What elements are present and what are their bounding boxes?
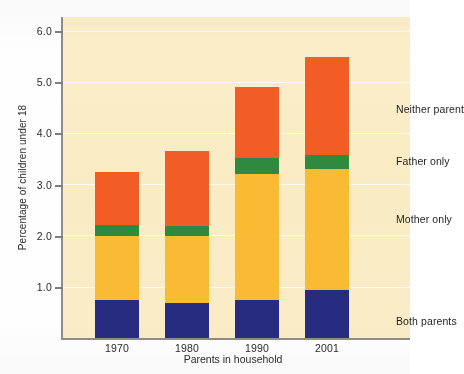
bar-segment-father-only (235, 158, 279, 174)
bar-segment-neither-parent (235, 87, 279, 158)
bar-segment-neither-parent (305, 57, 349, 155)
bar-segment-mother-only (305, 169, 349, 290)
bar-segment-mother-only (95, 236, 139, 300)
bar-1990[interactable] (235, 87, 279, 338)
y-tick-label-5: 5.0 (6, 76, 52, 88)
y-tick-mark (55, 287, 63, 289)
bar-segment-both-parents (235, 300, 279, 338)
bar-segment-mother-only (235, 174, 279, 300)
gridline (62, 82, 410, 83)
bar-segment-both-parents (95, 300, 139, 338)
y-tick-label-4: 4.0 (6, 127, 52, 139)
x-axis-line (61, 338, 410, 340)
bar-segment-both-parents (165, 303, 209, 338)
y-tick-mark (55, 185, 63, 187)
bar-segment-mother-only (165, 236, 209, 303)
bar-segment-both-parents (305, 290, 349, 338)
x-axis-title: Parents in household (118, 353, 348, 365)
bar-2001[interactable] (305, 57, 349, 338)
bar-1970[interactable] (95, 172, 139, 338)
bar-segment-neither-parent (165, 151, 209, 226)
bar-segment-neither-parent (95, 172, 139, 225)
y-tick-label-2: 2.0 (6, 230, 52, 242)
y-tick-mark (55, 133, 63, 135)
legend-item-neither-parent: Neither parent (396, 103, 464, 115)
y-tick-mark (55, 236, 63, 238)
bar-segment-father-only (165, 226, 209, 236)
legend-item-both-parents: Both parents (396, 315, 457, 327)
y-tick-mark (55, 82, 63, 84)
y-tick-label-3: 3.0 (6, 179, 52, 191)
y-tick-label-1: 1.0 (6, 281, 52, 293)
plot-area: Neither parent Father only Mother only B… (62, 17, 410, 338)
y-axis-line (61, 17, 63, 339)
y-axis-title: Percentage of children under 18 (17, 78, 28, 278)
legend-item-father-only: Father only (396, 155, 450, 167)
gridline (62, 31, 410, 32)
bar-segment-father-only (95, 225, 139, 236)
y-tick-label-6: 6.0 (6, 25, 52, 37)
y-tick-mark (55, 31, 63, 33)
bar-1980[interactable] (165, 151, 209, 338)
bar-segment-father-only (305, 155, 349, 169)
legend-item-mother-only: Mother only (396, 213, 452, 225)
